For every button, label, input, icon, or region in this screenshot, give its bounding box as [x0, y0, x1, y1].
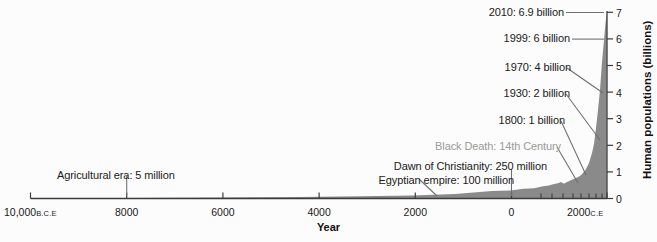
leader-black-death	[557, 147, 578, 183]
y-tick-text-5: 5	[616, 60, 622, 72]
x-tick-text-2: 6000	[211, 206, 234, 218]
annotation-dawn-christianity-label: Dawn of Christianity: 250 million	[394, 160, 547, 172]
y-tick-label-3: 3	[616, 114, 622, 125]
annotation-dawn-christianity: Dawn of Christianity: 250 million	[394, 161, 547, 172]
leader-pop-1930	[566, 94, 600, 140]
annotation-egyptian-empire-label: Egyptian empire: 100 million	[379, 174, 514, 186]
x-tick-label-2000-bce: 2000	[385, 207, 445, 218]
x-tick-label-6000: 6000	[193, 207, 253, 218]
annotation-agricultural-era-label: Agricultural era: 5 million	[57, 169, 175, 181]
y-tick-text-0: 0	[616, 193, 622, 205]
x-tick-text-1: 8000	[115, 206, 138, 218]
annotation-pop-1970: 1970: 4 billion	[505, 62, 571, 73]
annotation-pop-1800-label: 1800: 1 billion	[499, 114, 565, 126]
annotation-black-death-label: Black Death: 14th Century	[435, 140, 561, 152]
population-growth-chart: 2010: 6.9 billion 1999: 6 billion 1970: …	[0, 0, 657, 242]
annotation-pop-1999-label: 1999: 6 billion	[504, 32, 570, 44]
x-tick-era-0: B.C.E	[36, 209, 57, 218]
y-tick-label-7: 7	[616, 8, 622, 19]
annotation-egyptian-empire: Egyptian empire: 100 million	[379, 175, 514, 186]
y-tick-label-4: 4	[616, 88, 622, 99]
y-tick-text-3: 3	[616, 113, 622, 125]
y-tick-text-1: 1	[616, 166, 622, 178]
y-tick-text-2: 2	[616, 140, 622, 152]
x-tick-text-3: 4000	[307, 206, 330, 218]
annotation-pop-1970-label: 1970: 4 billion	[505, 61, 571, 73]
annotation-pop-2010-label: 2010: 6.9 billion	[489, 6, 564, 18]
annotation-pop-1930: 1930: 2 billion	[504, 88, 570, 99]
leader-pop-1800	[561, 121, 586, 175]
y-tick-text-6: 6	[616, 33, 622, 45]
x-tick-label-2000-ce: 2000C.E	[567, 207, 639, 218]
x-tick-text-0: 10,000	[4, 206, 36, 218]
y-tick-label-6: 6	[616, 34, 622, 45]
x-tick-text-6: 2000	[567, 206, 590, 218]
x-tick-label-0: 0	[482, 207, 542, 218]
y-tick-label-5: 5	[616, 61, 622, 72]
y-axis-title: Human populations (billions)	[640, 0, 656, 200]
annotation-pop-1800: 1800: 1 billion	[499, 115, 565, 126]
x-axis-title: Year	[0, 222, 657, 233]
y-tick-label-0: 0	[616, 194, 622, 205]
annotation-agricultural-era: Agricultural era: 5 million	[57, 170, 175, 181]
annotation-pop-2010: 2010: 6.9 billion	[489, 7, 564, 18]
y-tick-label-2: 2	[616, 141, 622, 152]
annotation-black-death: Black Death: 14th Century	[435, 141, 561, 152]
x-tick-label-4000: 4000	[289, 207, 349, 218]
x-tick-label-10000-bce: 10,000B.C.E	[0, 207, 80, 218]
y-axis-ticks	[607, 12, 613, 198]
x-tick-label-8000: 8000	[97, 207, 157, 218]
y-tick-text-7: 7	[616, 7, 622, 19]
x-tick-era-6: C.E	[590, 209, 603, 218]
x-tick-text-5: 0	[509, 206, 515, 218]
x-tick-text-4: 2000	[404, 206, 427, 218]
y-tick-label-1: 1	[616, 167, 622, 178]
annotation-pop-1930-label: 1930: 2 billion	[504, 87, 570, 99]
y-tick-text-4: 4	[616, 87, 622, 99]
leader-pop-1970	[567, 68, 603, 93]
annotation-pop-1999: 1999: 6 billion	[504, 33, 570, 44]
